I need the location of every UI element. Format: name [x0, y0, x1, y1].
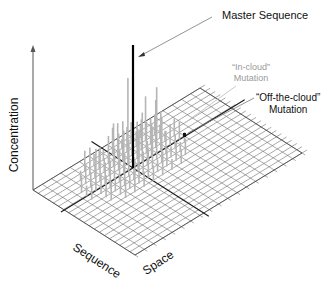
off-cloud-mutation-label: “Off-the-cloud” Mutation [256, 92, 320, 116]
master-pointer-arrowhead-icon [138, 52, 145, 57]
concentration-axis-label: Concentration [7, 95, 21, 175]
in-cloud-mutation-label: “In-cloud” Mutation [232, 62, 270, 84]
diagram-canvas [0, 0, 324, 284]
grid-line [130, 147, 302, 252]
grid-line [120, 140, 292, 245]
master-sequence-pointer [140, 17, 212, 56]
master-sequence-label: Master Sequence [222, 9, 308, 21]
in-cloud-label-line1: “In-cloud” [232, 62, 270, 73]
concentration-axis-arrowhead-icon [31, 45, 36, 52]
quasispecies-diagram: Master Sequence “In-cloud” Mutation “Off… [0, 0, 324, 284]
axes [31, 45, 36, 190]
off-cloud-mutation-marker [183, 133, 186, 137]
grid-line [125, 143, 297, 248]
grid-line [115, 137, 287, 242]
off-cloud-label-line2: Mutation [256, 104, 320, 116]
off-cloud-label-line1: “Off-the-cloud” [256, 92, 320, 104]
in-cloud-label-line2: Mutation [232, 73, 270, 84]
in-cloud-pointer [186, 86, 236, 122]
